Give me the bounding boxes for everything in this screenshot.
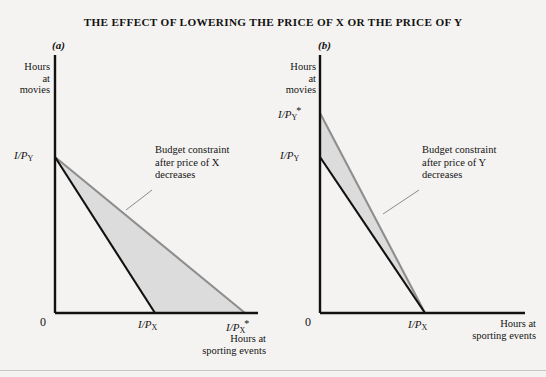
panel-a-y-tick-text: I/P: [14, 149, 27, 161]
panel-a-x-tick-star-glyph: *: [244, 318, 249, 329]
panel-b-y-tick-star-text: I/P: [278, 108, 291, 120]
panel-b-x-tick-I-over-Px: I/PX: [408, 318, 427, 332]
panel-b-y-tick-text: I/P: [280, 149, 293, 161]
panel-b-y-tick-I-over-Py-star: I/PY*: [278, 105, 301, 122]
panel-b-x-tick-sub: X: [421, 323, 427, 332]
panel-a-x-tick-text: I/P: [138, 318, 151, 330]
panel-a-x-tick-I-over-Px: I/PX: [138, 318, 157, 332]
panel-a-y-axis-title: Hours at movies: [6, 61, 50, 96]
panel-b-x-tick-text: I/P: [408, 318, 421, 330]
panel-a-y-tick-I-over-Py: I/PY: [14, 149, 33, 163]
panel-a-x-tick-sub: X: [151, 323, 157, 332]
panel-b-y-tick-star-glyph: *: [296, 105, 301, 116]
panel-b-y-tick-sub: Y: [293, 154, 299, 163]
panel-b-y-tick-I-over-Py: I/PY: [280, 149, 299, 163]
panel-b-annotation: Budget constraint after price of Y decre…: [422, 144, 534, 182]
panel-a-y-tick-sub: Y: [27, 154, 33, 163]
panel-b-y-axis-title: Hours at movies: [272, 61, 316, 96]
panel-b-original-budget-line: [320, 157, 425, 313]
panel-a-x-axis-title: Hours at sporting events: [176, 333, 266, 356]
panel-b-new-budget-line: [320, 113, 425, 313]
figure-root: THE EFFECT OF LOWERING THE PRICE OF X OR…: [0, 0, 546, 377]
panel-b-x-axis-title: Hours at sporting events: [446, 318, 536, 341]
panel-a-annotation-leader-line: [126, 190, 152, 210]
panel-b-origin-label: 0: [305, 315, 311, 330]
panel-a-origin-label: 0: [40, 315, 46, 330]
panel-a-x-tick-star-text: I/P: [226, 321, 239, 333]
panel-b-annotation-leader-line: [383, 190, 419, 214]
panel-b-plot: [320, 55, 525, 313]
panel-a-plot: [55, 55, 258, 313]
panel-a-annotation: Budget constraint after price of X decre…: [155, 144, 265, 182]
bottom-divider: [0, 370, 546, 371]
